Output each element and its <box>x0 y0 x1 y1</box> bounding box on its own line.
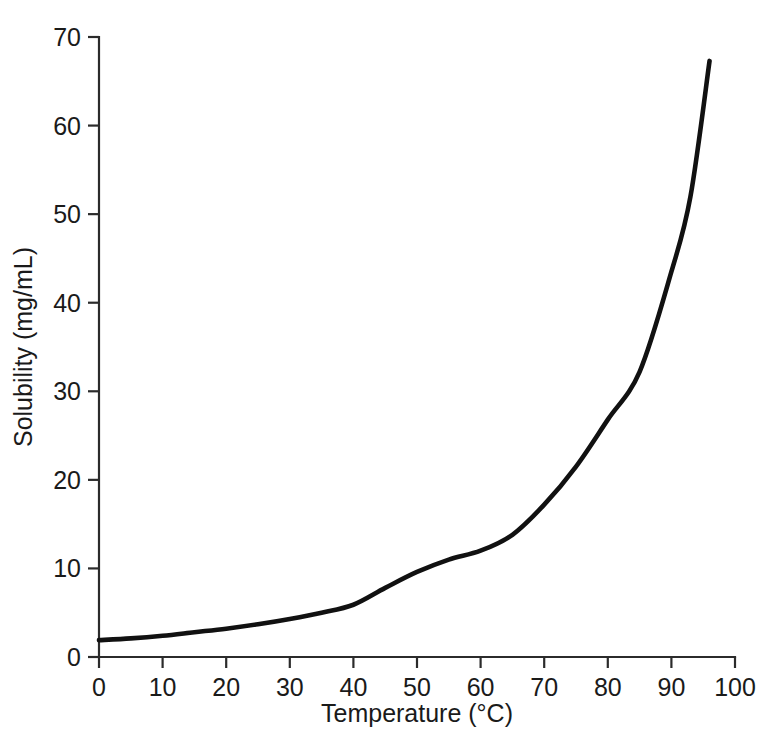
y-axis-title: Solubility (mg/mL) <box>9 247 37 447</box>
y-tick-label: 70 <box>53 23 81 51</box>
x-tick-label: 30 <box>276 673 304 701</box>
y-tick-label: 60 <box>53 112 81 140</box>
y-tick-label: 20 <box>53 466 81 494</box>
x-tick-label: 90 <box>657 673 685 701</box>
x-tick-label: 80 <box>594 673 622 701</box>
data-series-group <box>99 61 710 640</box>
y-tick-label: 30 <box>53 377 81 405</box>
x-tick-label: 100 <box>714 673 756 701</box>
y-tick-label: 40 <box>53 289 81 317</box>
data-curve-solubility <box>99 61 710 640</box>
x-tick-label: 0 <box>92 673 106 701</box>
x-axis-title: Temperature (°C) <box>321 699 513 727</box>
x-tick-label: 20 <box>212 673 240 701</box>
y-tick-label: 10 <box>53 554 81 582</box>
x-tick-label: 10 <box>149 673 177 701</box>
y-axis: 010203040506070 <box>53 23 99 671</box>
solubility-temperature-chart: 010203040506070 0102030405060708090100 T… <box>0 0 775 741</box>
x-axis: 0102030405060708090100 <box>92 657 756 701</box>
y-tick-label: 0 <box>67 643 81 671</box>
x-tick-label: 40 <box>339 673 367 701</box>
y-tick-label: 50 <box>53 200 81 228</box>
x-tick-label: 60 <box>467 673 495 701</box>
chart-canvas: 010203040506070 0102030405060708090100 T… <box>0 0 775 741</box>
x-tick-label: 50 <box>403 673 431 701</box>
x-tick-label: 70 <box>530 673 558 701</box>
